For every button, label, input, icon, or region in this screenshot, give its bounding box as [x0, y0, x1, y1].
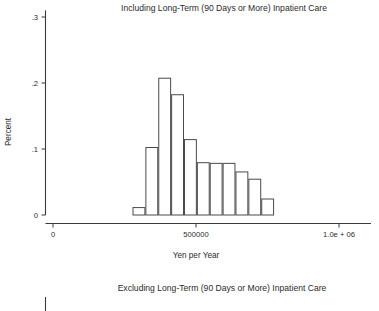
y-tick-label-1: .1 [32, 145, 38, 154]
figure-root: Including Long-Term (90 Days or More) In… [0, 0, 379, 311]
histogram-bar [172, 95, 184, 215]
histogram-bar [236, 172, 248, 215]
x-axis-label: Yen per Year [173, 251, 220, 260]
histogram-bar [184, 140, 196, 215]
histogram-bar [159, 78, 171, 215]
histogram-bar [133, 208, 145, 215]
histogram-bars [133, 78, 274, 215]
panel-2-title: Excluding Long-Term (90 Days or More) In… [118, 283, 327, 293]
panel-1-title: Including Long-Term (90 Days or More) In… [121, 3, 327, 13]
x-tick-label-1: 500000 [183, 230, 208, 239]
y-tick-label-0: 0 [34, 211, 38, 220]
histogram-bar [249, 179, 261, 215]
histogram-bar [223, 163, 235, 215]
y-tick-label-3: .3 [32, 13, 38, 22]
histogram-bar [262, 199, 274, 215]
histogram-bar [210, 163, 222, 215]
y-axis-label: Percent [4, 117, 13, 146]
y-tick-label-2: .2 [32, 79, 38, 88]
x-tick-label-0: 0 [51, 230, 55, 239]
histogram-bar [197, 163, 209, 215]
chart-canvas: Including Long-Term (90 Days or More) In… [0, 0, 379, 311]
histogram-bar [146, 148, 158, 215]
x-tick-label-2: 1.0e + 06 [323, 230, 355, 239]
